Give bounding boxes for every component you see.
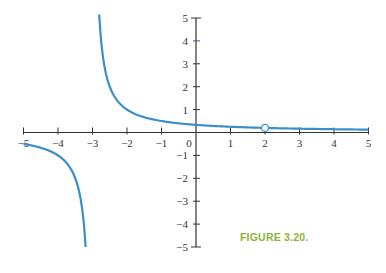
y-tick-label: 5 bbox=[183, 12, 189, 24]
y-tick-label: −3 bbox=[176, 195, 188, 207]
x-tick-label: 2 bbox=[262, 137, 268, 149]
y-tick-label: −5 bbox=[176, 241, 188, 253]
right-branch-curve bbox=[99, 14, 368, 129]
y-tick-label: 4 bbox=[183, 35, 189, 47]
x-tick-label: −1 bbox=[156, 137, 168, 149]
x-tick-label: 3 bbox=[297, 137, 303, 149]
x-tick-label: −3 bbox=[87, 137, 99, 149]
y-tick-label: 3 bbox=[183, 58, 189, 70]
x-tick-label: 0 bbox=[186, 137, 192, 149]
y-tick-label: −1 bbox=[176, 149, 188, 161]
y-tick-label: 1 bbox=[183, 104, 189, 116]
x-tick-label: −2 bbox=[121, 137, 133, 149]
left-branch-curve bbox=[24, 144, 86, 247]
x-tick-label: −5 bbox=[18, 137, 30, 149]
y-tick-label: 2 bbox=[183, 81, 189, 93]
y-tick-label: −4 bbox=[176, 218, 188, 230]
function-graph: −5−4−3−2−1012345−5−4−3−2−112345 bbox=[0, 0, 386, 273]
y-tick-label: −2 bbox=[176, 172, 188, 184]
x-tick-label: 4 bbox=[331, 137, 337, 149]
figure-caption: FIGURE 3.20. bbox=[240, 231, 308, 243]
x-tick-label: 5 bbox=[366, 137, 372, 149]
x-tick-label: 1 bbox=[228, 137, 234, 149]
hole-point bbox=[262, 124, 269, 131]
x-tick-label: −4 bbox=[52, 137, 64, 149]
